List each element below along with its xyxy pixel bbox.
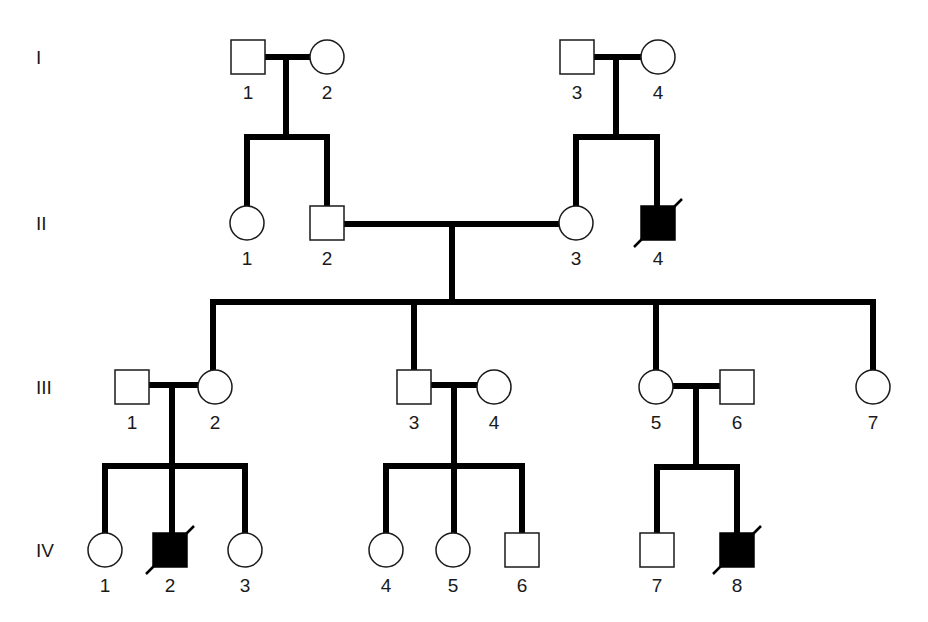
- individual-number: 3: [572, 82, 583, 103]
- individual-III-4[interactable]: 4: [477, 370, 511, 433]
- individual-I-2[interactable]: 2: [310, 40, 344, 103]
- individual-IV-6[interactable]: 6: [505, 533, 539, 596]
- individual-number: 2: [165, 575, 176, 596]
- individual-number: 5: [651, 412, 662, 433]
- individual-III-2[interactable]: 2: [198, 370, 232, 433]
- individual-II-3[interactable]: 3: [559, 206, 593, 269]
- individual-number: 1: [243, 82, 254, 103]
- generation-labels: IIIIIIIV: [36, 47, 54, 561]
- individual-number: 8: [732, 575, 743, 596]
- individual-III-6[interactable]: 6: [720, 370, 754, 433]
- individual-III-5[interactable]: 5: [639, 370, 673, 433]
- individual-IV-1[interactable]: 1: [88, 533, 122, 596]
- individual-number: 7: [652, 575, 663, 596]
- individual-number: 1: [100, 575, 111, 596]
- generation-label: III: [36, 377, 52, 398]
- female-icon: [230, 206, 264, 240]
- individual-number: 3: [571, 248, 582, 269]
- female-icon: [436, 533, 470, 567]
- individual-II-4[interactable]: 4: [634, 199, 682, 269]
- male-icon: [231, 40, 265, 74]
- individual-number: 7: [868, 412, 879, 433]
- female-icon: [856, 370, 890, 404]
- male-icon: [560, 40, 594, 74]
- individual-II-1[interactable]: 1: [230, 206, 264, 269]
- male-icon: [310, 206, 344, 240]
- individual-number: 2: [210, 412, 221, 433]
- generation-label: II: [36, 213, 47, 234]
- female-icon: [639, 370, 673, 404]
- individual-I-3[interactable]: 3: [560, 40, 594, 103]
- male-icon: [505, 533, 539, 567]
- individual-number: 4: [653, 248, 664, 269]
- male-icon: [720, 370, 754, 404]
- individual-number: 6: [732, 412, 743, 433]
- relationship-lines: [105, 57, 873, 533]
- individual-number: 5: [448, 575, 459, 596]
- individual-IV-2[interactable]: 2: [146, 526, 194, 596]
- individual-II-2[interactable]: 2: [310, 206, 344, 269]
- individual-number: 1: [127, 412, 138, 433]
- female-icon: [198, 370, 232, 404]
- individual-number: 6: [517, 575, 528, 596]
- individual-number: 2: [322, 82, 333, 103]
- generation-label: I: [36, 47, 41, 68]
- individual-number: 3: [240, 575, 251, 596]
- individual-I-4[interactable]: 4: [641, 40, 675, 103]
- female-icon: [641, 40, 675, 74]
- individual-IV-5[interactable]: 5: [436, 533, 470, 596]
- female-icon: [477, 370, 511, 404]
- male-icon: [115, 370, 149, 404]
- individual-III-7[interactable]: 7: [856, 370, 890, 433]
- female-icon: [559, 206, 593, 240]
- individual-IV-8[interactable]: 8: [713, 526, 761, 596]
- individual-I-1[interactable]: 1: [231, 40, 265, 103]
- individual-number: 3: [409, 412, 420, 433]
- individual-number: 4: [489, 412, 500, 433]
- female-icon: [88, 533, 122, 567]
- individual-III-1[interactable]: 1: [115, 370, 149, 433]
- individual-IV-7[interactable]: 7: [640, 533, 674, 596]
- male-icon: [640, 533, 674, 567]
- individual-number: 4: [653, 82, 664, 103]
- female-icon: [310, 40, 344, 74]
- individual-IV-4[interactable]: 4: [369, 533, 403, 596]
- female-icon: [369, 533, 403, 567]
- male-icon: [397, 370, 431, 404]
- female-icon: [228, 533, 262, 567]
- individual-III-3[interactable]: 3: [397, 370, 431, 433]
- individual-number: 1: [242, 248, 253, 269]
- individuals: 12341234123456712345678: [88, 40, 890, 596]
- individual-IV-3[interactable]: 3: [228, 533, 262, 596]
- individual-number: 2: [322, 248, 333, 269]
- individual-number: 4: [381, 575, 392, 596]
- generation-label: IV: [36, 540, 54, 561]
- pedigree-chart: IIIIIIIV 12341234123456712345678: [0, 0, 928, 622]
